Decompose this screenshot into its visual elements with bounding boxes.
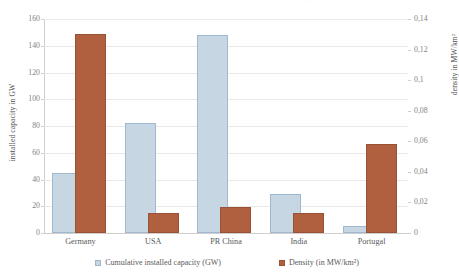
y-axis-right-tickmark bbox=[408, 233, 411, 234]
y-axis-right-tickmark bbox=[408, 202, 411, 203]
legend-swatch-density-icon bbox=[279, 260, 285, 266]
x-axis-category-label: India bbox=[262, 237, 335, 246]
y-axis-right-tick-label: 0 bbox=[414, 228, 454, 237]
y-axis-right-tick-label: 0,08 bbox=[414, 106, 454, 115]
y-axis-left-tick-label: 140 bbox=[0, 41, 40, 50]
legend-item-density: Density (in MW/km²) bbox=[279, 258, 359, 267]
bar-density[interactable] bbox=[366, 144, 397, 233]
bar-group: Portugal bbox=[335, 19, 408, 233]
y-axis-right-tick-label: 0,1 bbox=[414, 75, 454, 84]
legend-swatch-capacity-icon bbox=[95, 260, 101, 266]
bar-capacity[interactable] bbox=[197, 35, 228, 233]
bar-density[interactable] bbox=[293, 213, 324, 233]
y-axis-left-tick-label: 60 bbox=[0, 148, 40, 157]
y-axis-right-tickmark bbox=[408, 111, 411, 112]
y-axis-left-tick-label: 100 bbox=[0, 94, 40, 103]
bar-density[interactable] bbox=[75, 34, 106, 233]
y-axis-right-tickmark bbox=[408, 19, 411, 20]
y-axis-left-tick-label: 0 bbox=[0, 228, 40, 237]
y-axis-right-tick-label: 0,06 bbox=[414, 136, 454, 145]
bar-group: USA bbox=[117, 19, 190, 233]
y-axis-left-tickmark bbox=[41, 233, 44, 234]
x-axis-category-label: Portugal bbox=[335, 237, 408, 246]
chart-legend: Cumulative installed capacity (GW) Densi… bbox=[0, 258, 454, 267]
y-axis-left-tick-label: 160 bbox=[0, 14, 40, 23]
y-axis-right-tick-label: 0,12 bbox=[414, 45, 454, 54]
y-axis-right-tickmark bbox=[408, 80, 411, 81]
chart-title: Installed PV - cumulative installed capa… bbox=[0, 0, 454, 1]
y-axis-right-tickmark bbox=[408, 172, 411, 173]
y-axis-right-tick-label: 0,02 bbox=[414, 197, 454, 206]
x-axis-category-label: USA bbox=[117, 237, 190, 246]
bar-group: Germany bbox=[44, 19, 117, 233]
bar-group: PR China bbox=[190, 19, 263, 233]
bar-density[interactable] bbox=[148, 213, 179, 233]
legend-label-capacity: Cumulative installed capacity (GW) bbox=[105, 258, 221, 267]
y-axis-left-tick-label: 40 bbox=[0, 175, 40, 184]
y-axis-left-tick-label: 80 bbox=[0, 121, 40, 130]
legend-label-density: Density (in MW/km²) bbox=[289, 258, 359, 267]
x-axis-category-label: PR China bbox=[190, 237, 263, 246]
y-axis-left-tick-label: 120 bbox=[0, 68, 40, 77]
legend-item-capacity: Cumulative installed capacity (GW) bbox=[95, 258, 221, 267]
bar-group: India bbox=[262, 19, 335, 233]
y-axis-right-tickmark bbox=[408, 141, 411, 142]
y-axis-left-tick-label: 20 bbox=[0, 201, 40, 210]
bar-density[interactable] bbox=[220, 207, 251, 233]
y-axis-right-tick-label: 0,04 bbox=[414, 167, 454, 176]
x-axis-category-label: Germany bbox=[44, 237, 117, 246]
y-axis-right-tickmark bbox=[408, 50, 411, 51]
y-axis-right-tick-label: 0,14 bbox=[414, 14, 454, 23]
